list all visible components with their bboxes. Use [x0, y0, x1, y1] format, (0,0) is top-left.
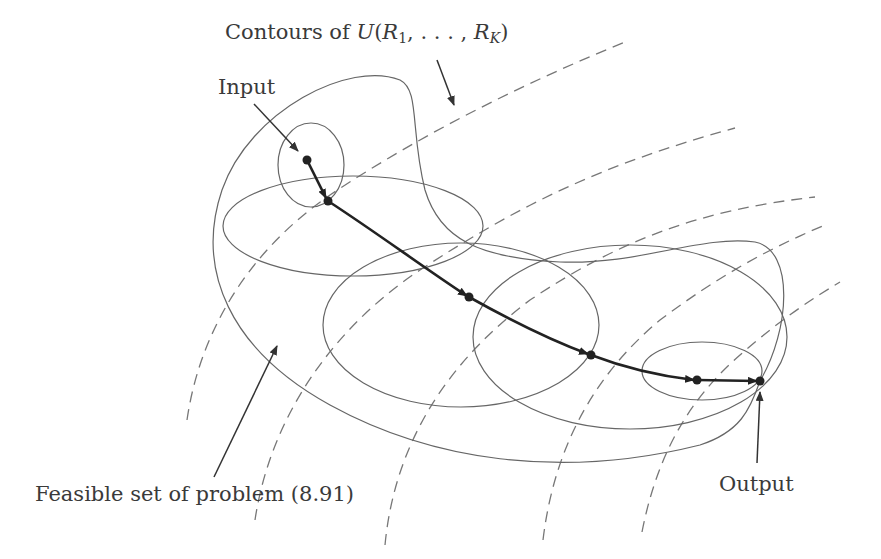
iteration-path — [307, 160, 757, 381]
rate-symbol-k: R — [474, 20, 490, 44]
contours-label-text: Contours of — [225, 20, 356, 44]
iterate-point-1 — [324, 197, 333, 206]
iterate-point-3 — [587, 351, 596, 360]
utility-symbol: U — [356, 20, 374, 44]
figure-canvas: Contours of U(R1, . . . , RK) Input Outp… — [0, 0, 881, 559]
iterate-point-4 — [693, 376, 702, 385]
region-ellipse-5 — [642, 342, 762, 400]
subscript-k: K — [490, 30, 500, 46]
region-ellipse-3 — [323, 243, 599, 407]
path-step-5 — [697, 380, 757, 381]
region-ellipse-4 — [473, 245, 787, 429]
region-ellipse-2 — [223, 176, 483, 276]
path-step-2 — [328, 201, 467, 296]
feasible-set-label: Feasible set of problem (8.91) — [35, 484, 354, 505]
ellipsis: , . . . , — [407, 20, 474, 44]
iterate-point-5 — [756, 377, 765, 386]
iterate-point-0 — [303, 156, 312, 165]
utility-contours — [187, 42, 840, 545]
contours-label: Contours of U(R1, . . . , RK) — [225, 22, 508, 45]
path-step-3 — [469, 297, 588, 354]
input-label: Input — [218, 77, 275, 98]
output-pointer-arrow — [757, 392, 760, 463]
contours-pointer-arrow — [437, 60, 454, 105]
output-label: Output — [719, 474, 794, 495]
iterate-point-2 — [465, 293, 474, 302]
subscript-1: 1 — [398, 30, 407, 46]
feasible-set-pointer-arrow — [214, 346, 277, 477]
region-ellipse-1 — [278, 123, 344, 207]
input-pointer-arrow — [254, 104, 298, 151]
paren-close: ) — [500, 20, 508, 44]
rate-symbol-1: R — [382, 20, 398, 44]
iterate-points — [303, 156, 765, 386]
